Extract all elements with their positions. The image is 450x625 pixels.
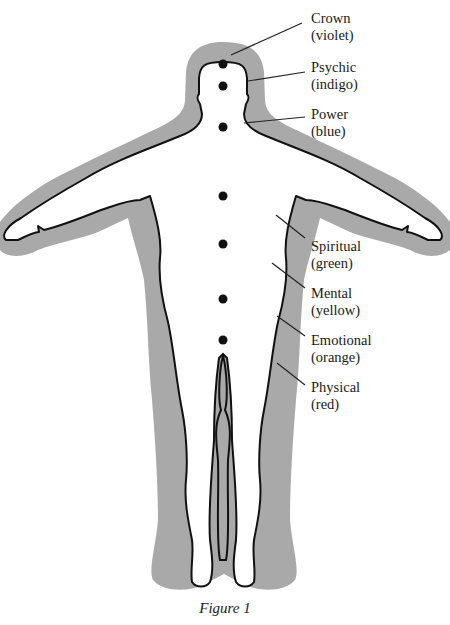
label-emotional-color: (orange) bbox=[311, 349, 371, 366]
label-spiritual: Spiritual (green) bbox=[311, 238, 361, 272]
label-crown: Crown (violet) bbox=[311, 10, 354, 44]
label-psychic-color: (indigo) bbox=[311, 76, 358, 93]
label-emotional: Emotional (orange) bbox=[311, 332, 371, 366]
label-emotional-name: Emotional bbox=[311, 332, 371, 349]
label-physical: Physical (red) bbox=[311, 379, 360, 413]
aura-body-diagram bbox=[0, 0, 450, 625]
label-power-color: (blue) bbox=[311, 123, 348, 140]
figure-caption: Figure 1 bbox=[0, 600, 450, 617]
label-mental-name: Mental bbox=[311, 285, 360, 302]
label-physical-color: (red) bbox=[311, 396, 360, 413]
chakra-dot-solar bbox=[219, 240, 228, 249]
label-psychic: Psychic (indigo) bbox=[311, 59, 358, 93]
label-spiritual-color: (green) bbox=[311, 255, 361, 272]
chakra-dot-crown bbox=[219, 60, 228, 69]
label-mental-color: (yellow) bbox=[311, 302, 360, 319]
chakra-dot-brow bbox=[219, 82, 228, 91]
label-mental: Mental (yellow) bbox=[311, 285, 360, 319]
leader-line-crown bbox=[231, 23, 302, 55]
chakra-dot-heart bbox=[219, 192, 228, 201]
label-psychic-name: Psychic bbox=[311, 59, 358, 76]
chakra-dot-sacral bbox=[219, 295, 228, 304]
label-crown-name: Crown bbox=[311, 10, 354, 27]
label-crown-color: (violet) bbox=[311, 27, 354, 44]
label-physical-name: Physical bbox=[311, 379, 360, 396]
chakra-dot-root bbox=[219, 336, 228, 345]
label-power: Power (blue) bbox=[311, 106, 348, 140]
chakra-dot-throat bbox=[219, 123, 228, 132]
body-layer bbox=[4, 62, 442, 587]
label-spiritual-name: Spiritual bbox=[311, 238, 361, 255]
label-power-name: Power bbox=[311, 106, 348, 123]
